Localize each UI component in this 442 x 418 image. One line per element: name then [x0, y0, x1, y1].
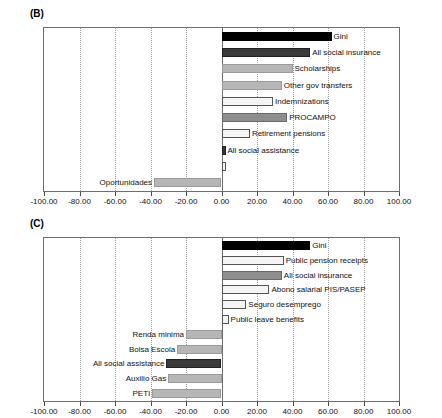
bar-row: PETI: [44, 388, 399, 399]
bar: [222, 315, 229, 324]
axis-tick-label: -80.00: [68, 197, 91, 207]
axis-tick: [80, 402, 81, 406]
bar: [152, 389, 221, 398]
panel-b: (B) GiniAll social insuranceScholarships…: [0, 0, 442, 208]
bar-label: Gini: [334, 31, 348, 42]
bar: [177, 345, 221, 354]
bar: [222, 32, 332, 41]
axis-tick-label: -100.00: [30, 407, 57, 417]
bar-label: Abono salarial PIS/PASEP: [271, 284, 365, 295]
bar-row: Indemnizations: [44, 96, 399, 107]
panel-c-x-axis: -100.00-80.00-60.00-40.00-20.000.0020.00…: [43, 402, 400, 418]
bar-label: Other gov transfers: [284, 80, 352, 91]
bar-label: Seguro desemprego: [248, 299, 321, 310]
bar-label: PROCAMPO: [289, 112, 336, 123]
bar: [222, 300, 247, 309]
axis-tick: [399, 402, 400, 406]
bar: [222, 48, 311, 57]
bar: [222, 64, 293, 73]
bar-label: All social insurance: [312, 47, 380, 58]
axis-tick-label: -60.00: [104, 407, 127, 417]
bar-row: Abono salarial PIS/PASEP: [44, 284, 399, 295]
axis-tick: [257, 402, 258, 406]
bar: [154, 178, 221, 187]
axis-tick-label: 20.00: [247, 197, 267, 207]
bar: [222, 285, 270, 294]
axis-tick-label: 0.00: [214, 407, 230, 417]
axis-tick: [364, 192, 365, 196]
bar-label: Retirement pensions: [252, 128, 325, 139]
axis-tick: [115, 192, 116, 196]
bar-row: Other gov transfers: [44, 80, 399, 91]
axis-tick: [364, 402, 365, 406]
axis-tick-label: -80.00: [68, 407, 91, 417]
axis-tick: [293, 192, 294, 196]
bar: [168, 374, 221, 383]
bar: [222, 113, 288, 122]
bar-row: Renda minima: [44, 329, 399, 340]
bar-row: Public leave benefits: [44, 314, 399, 325]
axis-tick: [399, 192, 400, 196]
bar-label: Scholarships: [295, 63, 341, 74]
bar: [222, 271, 282, 280]
bar-label: PETI: [133, 388, 151, 399]
bar-row: [44, 161, 399, 172]
axis-tick: [222, 192, 223, 196]
bar-row: Seguro desemprego: [44, 299, 399, 310]
bar-label: Indemnizations: [275, 96, 329, 107]
bar: [222, 97, 273, 106]
bar: [222, 129, 250, 138]
panel-b-x-axis: -100.00-80.00-60.00-40.00-20.000.0020.00…: [43, 192, 400, 212]
bar: [222, 162, 226, 171]
bar: [222, 81, 282, 90]
axis-tick-label: -20.00: [175, 407, 198, 417]
axis-tick-label: 80.00: [353, 407, 373, 417]
axis-tick-label: 20.00: [247, 407, 267, 417]
bar-row: All social insurance: [44, 47, 399, 58]
bar-label: Auxilio Gas: [126, 373, 166, 384]
axis-tick-label: 80.00: [353, 197, 373, 207]
bar-row: Gini: [44, 31, 399, 42]
bar-row: Auxilio Gas: [44, 373, 399, 384]
axis-tick-label: 100.00: [387, 407, 411, 417]
axis-tick-label: -40.00: [139, 407, 162, 417]
axis-tick-label: -60.00: [104, 197, 127, 207]
bar-row: All social assistance: [44, 358, 399, 369]
bar-label: All social assistance: [228, 145, 300, 156]
axis-tick-label: -100.00: [30, 197, 57, 207]
bar: [166, 359, 221, 368]
bar-label: All social assistance: [93, 358, 165, 369]
bar: [222, 256, 284, 265]
bar-row: Bolsa Escola: [44, 344, 399, 355]
axis-tick: [186, 192, 187, 196]
axis-tick: [186, 402, 187, 406]
bar-row: All social insurance: [44, 270, 399, 281]
panel-c: (C) GiniPublic pension receiptsAll socia…: [0, 210, 442, 418]
bar-row: All social assistance: [44, 145, 399, 156]
axis-tick: [151, 192, 152, 196]
axis-tick: [257, 192, 258, 196]
bar-row: Scholarships: [44, 63, 399, 74]
axis-tick: [44, 192, 45, 196]
axis-tick-label: 0.00: [214, 197, 230, 207]
axis-tick: [328, 402, 329, 406]
bar-label: Oportunidades: [100, 177, 152, 188]
bar: [186, 330, 222, 339]
panel-c-plot-area: GiniPublic pension receiptsAll social in…: [43, 237, 400, 402]
panel-b-label: (B): [30, 8, 44, 20]
bar-row: PROCAMPO: [44, 112, 399, 123]
axis-tick: [115, 402, 116, 406]
bar-row: Public pension receipts: [44, 255, 399, 266]
axis-tick-label: -20.00: [175, 197, 198, 207]
panel-c-label: (C): [30, 218, 44, 230]
axis-tick: [44, 402, 45, 406]
axis-tick: [80, 192, 81, 196]
axis-tick: [293, 402, 294, 406]
bar: [222, 241, 311, 250]
bar-label: Renda minima: [132, 329, 184, 340]
bar-row: Retirement pensions: [44, 128, 399, 139]
bar-label: Bolsa Escola: [129, 344, 175, 355]
axis-tick-label: 40.00: [282, 407, 302, 417]
bar-row: Oportunidades: [44, 177, 399, 188]
panel-b-plot-area: GiniAll social insuranceScholarshipsOthe…: [43, 27, 400, 192]
